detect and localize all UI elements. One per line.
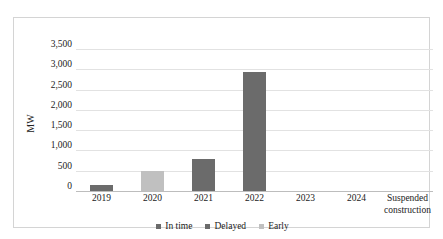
- x-axis-tick-line: construction: [382, 205, 433, 217]
- bar[interactable]: [243, 72, 266, 191]
- x-axis-tick-line: 2019: [76, 193, 127, 205]
- y-axis-title-label: MW: [25, 114, 36, 133]
- bar-slot: [331, 49, 382, 191]
- legend-label: Delayed: [214, 221, 246, 232]
- bar-slot: [76, 49, 127, 191]
- x-axis-tick-line: 2021: [178, 193, 229, 205]
- y-axis-tick-labels: 05001,0001,5002,0002,5003,0003,500: [38, 44, 72, 192]
- x-axis-tick: Suspendedconstruction: [382, 193, 433, 216]
- bar-slot: [382, 49, 433, 191]
- x-axis-tick: 2023: [280, 193, 331, 205]
- legend-item[interactable]: Early: [259, 221, 289, 232]
- legend-swatch-icon: [205, 224, 210, 229]
- x-axis-tick-line: Suspended: [382, 193, 433, 205]
- chart-container: MW 05001,0001,5002,0002,5003,0003,500 20…: [13, 17, 430, 228]
- x-axis-tick-line: 2022: [229, 193, 280, 205]
- x-axis-tick: 2024: [331, 193, 382, 205]
- x-axis-tick-line: 2020: [127, 193, 178, 205]
- gridline: [76, 191, 433, 192]
- plot-area: [76, 49, 433, 191]
- y-axis-tick: 3,000: [38, 59, 72, 69]
- x-axis-tick-line: 2024: [331, 193, 382, 205]
- bar[interactable]: [141, 171, 164, 191]
- legend-swatch-icon: [259, 224, 264, 229]
- y-axis-title: MW: [22, 78, 38, 168]
- x-axis-tick: 2022: [229, 193, 280, 205]
- y-axis-tick: 2,000: [38, 100, 72, 110]
- x-axis-tick: 2020: [127, 193, 178, 205]
- x-axis-tick: 2019: [76, 193, 127, 205]
- y-axis-tick: 2,500: [38, 80, 72, 90]
- bar-slot: [229, 49, 280, 191]
- legend-label: In time: [165, 221, 192, 232]
- bars-layer: [76, 49, 433, 191]
- y-axis-tick: 0: [38, 181, 72, 191]
- y-axis-tick: 1,500: [38, 120, 72, 130]
- legend-label: Early: [268, 221, 289, 232]
- bar[interactable]: [192, 159, 215, 191]
- x-axis-tick: 2021: [178, 193, 229, 205]
- bar-slot: [178, 49, 229, 191]
- bar[interactable]: [90, 185, 113, 191]
- legend-swatch-icon: [156, 224, 161, 229]
- bar-slot: [127, 49, 178, 191]
- y-axis-tick: 3,500: [38, 39, 72, 49]
- y-axis-tick: 500: [38, 161, 72, 171]
- x-axis-tick-line: 2023: [280, 193, 331, 205]
- y-axis-tick: 1,000: [38, 140, 72, 150]
- x-axis-tick-labels: 201920202021202220232024Suspendedconstru…: [76, 193, 433, 221]
- chart-legend: In timeDelayedEarly: [14, 221, 431, 232]
- legend-item[interactable]: Delayed: [205, 221, 246, 232]
- legend-item[interactable]: In time: [156, 221, 192, 232]
- bar-slot: [280, 49, 331, 191]
